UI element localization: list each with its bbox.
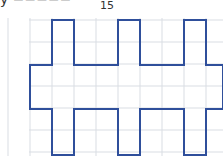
grid-figure [0,0,223,156]
grid-lines [8,18,223,156]
cross-shape-outline [30,20,223,155]
